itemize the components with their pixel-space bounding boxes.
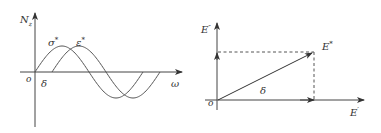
left-origin-label: o	[26, 74, 32, 84]
figure: Nz σ* ε* o δ ω E″ E* E′ o δ	[0, 0, 381, 133]
right-diagram: E″ E* E′ o δ	[200, 23, 364, 118]
phase-delta-label: δ	[41, 78, 47, 89]
right-origin-label: o	[208, 98, 214, 108]
left-y-axis-label: Nz	[19, 14, 33, 27]
left-diagram: Nz σ* ε* o δ ω	[19, 13, 182, 127]
sigma-label: σ*	[48, 36, 59, 48]
right-y-axis-label: E″	[200, 24, 211, 35]
right-x-axis-label: E′	[349, 106, 359, 118]
left-x-axis-label: ω	[171, 78, 179, 89]
angle-delta-label: δ	[260, 85, 266, 96]
epsilon-label: ε*	[76, 36, 85, 48]
vector-label: E*	[321, 40, 333, 52]
